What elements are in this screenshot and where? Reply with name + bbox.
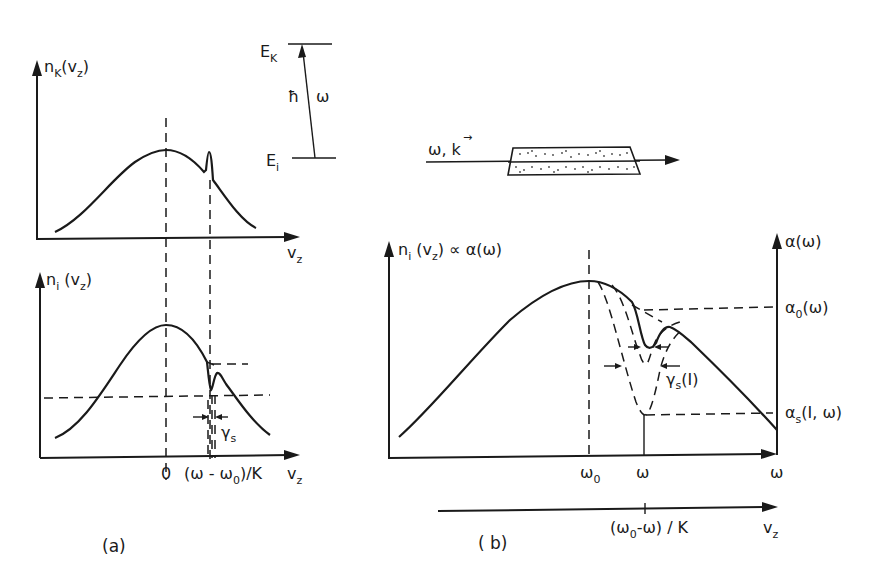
photon-omega-label: ω <box>316 87 329 106</box>
upper-x-axis <box>37 237 290 239</box>
energy-level-diagram: EK Ei ħ ω <box>260 42 336 174</box>
lower-x-axis-arrow-icon <box>284 450 300 460</box>
panel-b-caption: ( b) <box>478 533 507 553</box>
zero-velocity-tick: 0 <box>161 464 171 483</box>
wavevector-arrow-icon: → <box>463 131 472 144</box>
vz-resonance-label: (ω0-ω) / K <box>610 518 689 541</box>
alpha0-level-guide <box>644 307 773 310</box>
omega-tick-label: ω <box>636 463 649 482</box>
omega-axis-label: ω <box>770 463 783 482</box>
panel-a-caption: (a) <box>102 536 126 556</box>
dip-width-arrowhead-left-icon <box>634 344 641 350</box>
vz-axis-label: vz <box>763 518 778 541</box>
saturation-width-label: γs(I) <box>666 370 698 392</box>
lower-x-axis <box>40 455 290 458</box>
right-y-label: α(ω) <box>785 232 821 251</box>
omega-axis-arrow-icon <box>761 449 777 459</box>
left-y-axis-arrow-icon <box>384 241 394 257</box>
hole-width-arrowhead-left-large-icon <box>615 363 622 369</box>
upper-x-axis-arrow-icon <box>284 232 300 242</box>
beam-through-cell <box>508 161 640 162</box>
weak-saturation-dip-curve <box>612 285 680 364</box>
left-y-label: ni (vz) ∝ α(ω) <box>398 240 502 263</box>
hole-width-label: γs <box>221 423 236 445</box>
lower-level-population-curve <box>55 325 270 438</box>
beam-label: ω, k <box>428 140 462 159</box>
strong-saturation-dip-curve <box>598 282 684 415</box>
panel-a-lower-plot: ni (vz) γs 0 (ω - ω0)/K vz <box>35 270 302 487</box>
alphas-level-guide <box>646 413 773 415</box>
upper-level-label: EK <box>260 42 278 65</box>
right-y-axis-arrow-icon <box>772 233 782 249</box>
photon-energy-label: ħ <box>288 87 299 106</box>
absorption-profile-curve <box>399 281 777 437</box>
lower-level-label: Ei <box>266 151 279 174</box>
hole-width-arrowhead-right-icon <box>215 414 222 420</box>
lower-x-label: vz <box>287 464 302 487</box>
panel-a-upper-plot: nK(vz) vz <box>32 57 302 480</box>
resonance-velocity-tick: (ω - ω0)/K <box>184 464 263 487</box>
upper-level-population-curve <box>55 150 256 232</box>
alpha0-label: α0(ω) <box>785 298 828 321</box>
upper-y-label: nK(vz) <box>44 57 89 80</box>
vz-axis-arrow-icon <box>762 502 778 512</box>
saturation-hole-burning-figure: nK(vz) vz EK Ei ħ ω ni (vz) γs <box>0 0 893 580</box>
panel-b-plot: ni (vz) ∝ α(ω) α(ω) α0(ω) αs(I, ω) γs(I)… <box>384 232 842 486</box>
transition-arrow-head-icon <box>298 44 306 58</box>
transition-arrow <box>303 52 315 158</box>
lower-y-label: ni (vz) <box>46 270 92 293</box>
omega0-tick-label: ω0 <box>580 463 600 486</box>
lower-y-axis-arrow-icon <box>35 272 45 288</box>
vz-axis <box>438 507 768 511</box>
upper-y-axis-arrow-icon <box>32 60 42 76</box>
laser-beam-arrow-icon <box>665 155 680 165</box>
upper-x-label: vz <box>287 243 302 266</box>
omega-axis <box>389 454 766 458</box>
alphas-label: αs(I, ω) <box>785 403 842 426</box>
absorption-cell-diagram: ω, k → <box>426 131 680 175</box>
